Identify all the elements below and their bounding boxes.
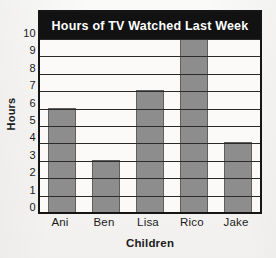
x-axis-tick-label: Jake (223, 216, 248, 228)
y-axis-tick-label: 2 (12, 167, 36, 178)
bar-ani (48, 108, 75, 212)
y-axis-tick-label: 7 (12, 80, 36, 91)
y-axis-tick-label: 3 (12, 149, 36, 160)
bars-layer (40, 39, 260, 212)
y-axis-tick-label: 1 (12, 184, 36, 195)
chart-title-banner: Hours of TV Watched Last Week (40, 12, 260, 39)
chart-title: Hours of TV Watched Last Week (52, 19, 249, 33)
x-axis-tick-label: Ben (93, 216, 114, 228)
chart-plot-frame: Hours of TV Watched Last Week (38, 10, 262, 214)
bar-lisa (136, 90, 163, 212)
y-axis-tick-label: 9 (12, 45, 36, 56)
bar-ben (92, 160, 119, 212)
chart-page: Hours 109876543210 Hours of TV Watched L… (0, 0, 276, 258)
y-axis-tick-label: 8 (12, 62, 36, 73)
x-axis-tick-labels: AniBenLisaRicoJake (38, 216, 262, 234)
chart-plot-area (40, 39, 260, 212)
bar-jake (224, 142, 251, 212)
x-axis-tick-label: Lisa (137, 216, 159, 228)
y-axis-tick-label: 10 (12, 28, 36, 39)
y-axis-tick-label: 6 (12, 97, 36, 108)
x-axis-title: Children (38, 237, 262, 249)
bar-rico (180, 39, 207, 212)
x-axis-tick-label: Ani (51, 216, 68, 228)
y-axis-tick-label: 0 (12, 202, 36, 213)
y-axis-tick-label: 4 (12, 132, 36, 143)
y-axis-tick-labels: 109876543210 (12, 33, 36, 214)
y-axis-tick-label: 5 (12, 115, 36, 126)
x-axis-tick-label: Rico (180, 216, 204, 228)
